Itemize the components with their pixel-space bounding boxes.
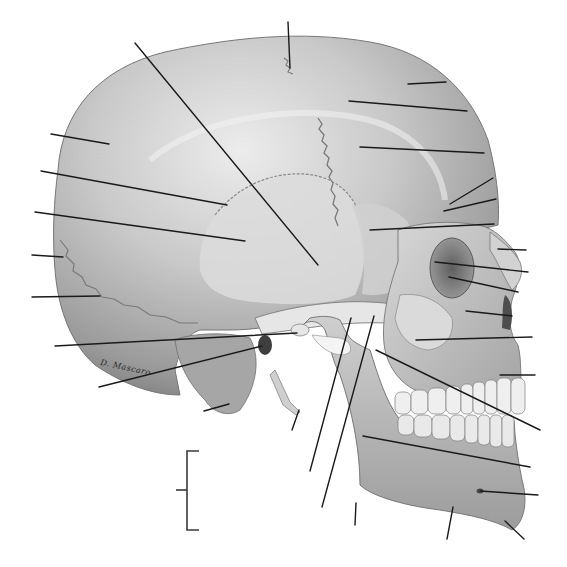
- label-bracket: [176, 451, 199, 530]
- skull-diagram: D. Mascaro: [0, 0, 567, 567]
- leader-line-L29: [355, 503, 356, 525]
- leader-line-L13: [498, 249, 526, 250]
- styloid-process: [270, 370, 300, 415]
- bracket-shape: [187, 451, 199, 530]
- mandibular-condyle: [291, 324, 309, 336]
- mastoid-process: [175, 334, 256, 414]
- leader-line-L16: [32, 296, 100, 297]
- orbit: [430, 238, 474, 298]
- skull-illustration: [0, 0, 567, 567]
- external-acoustic-meatus: [258, 335, 272, 355]
